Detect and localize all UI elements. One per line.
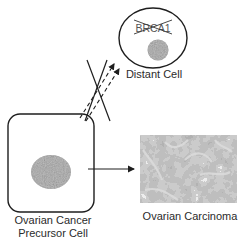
blocked-metastasis-path	[80, 60, 119, 121]
carcinoma-histology-image	[140, 135, 237, 203]
precursor-cell-nucleus	[30, 154, 72, 190]
brca1-gene-label: BRCA1	[135, 22, 170, 34]
dashed-arrow-1	[80, 64, 114, 118]
distant-cell-label: Distant Cell	[118, 68, 190, 81]
precursor-cell-label: Ovarian Cancer Precursor Cell	[4, 214, 102, 240]
carcinoma-label: Ovarian Carcinoma	[140, 210, 240, 223]
precursor-cell-label-line2: Precursor Cell	[4, 227, 102, 240]
distant-cell-nucleus	[146, 38, 170, 62]
block-cross-line-1	[87, 60, 110, 121]
precursor-cell-label-line1: Ovarian Cancer	[4, 214, 102, 227]
block-cross-line-2	[85, 60, 107, 121]
dashed-arrow-2	[86, 69, 119, 121]
distant-cell: BRCA1	[119, 8, 187, 68]
precursor-cell	[8, 114, 94, 212]
